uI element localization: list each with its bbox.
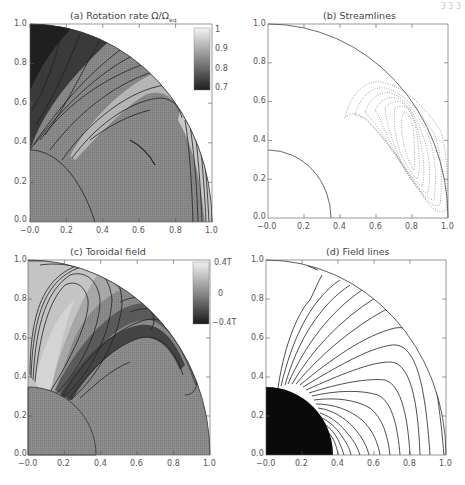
- core: [266, 387, 333, 455]
- panel-field-lines: (d) Field lines: [0, 0, 465, 485]
- x-tick-label: 0.6: [367, 459, 380, 468]
- x-tick-label: 0.4: [331, 459, 344, 468]
- y-tick-label: 0.8: [251, 294, 264, 303]
- y-tick-label: 0.4: [251, 372, 264, 381]
- y-tick-label: 0.0: [251, 449, 264, 458]
- x-tick-label: 1.0: [439, 459, 452, 468]
- y-tick-label: 0.2: [251, 411, 264, 420]
- y-tick-label: 0.6: [251, 333, 264, 342]
- x-tick-label: 0.8: [403, 459, 416, 468]
- field-lines-plot: [0, 0, 465, 485]
- x-tick-label: −0.0: [256, 459, 275, 468]
- y-tick-label: 1.0: [251, 255, 264, 264]
- x-tick-label: 0.2: [295, 459, 308, 468]
